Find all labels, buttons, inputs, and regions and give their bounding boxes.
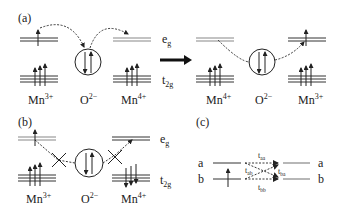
ion-label: Mn3+	[28, 92, 54, 107]
panel-a-label: (a)	[18, 11, 31, 25]
panel-b: (b)	[18, 115, 171, 206]
cross-icon	[52, 153, 66, 167]
orbital-a-left-label: a	[198, 156, 204, 170]
hopping-arrow-icon	[275, 42, 304, 60]
ion-label: Mn4+	[121, 92, 147, 107]
cross-icon	[108, 150, 122, 164]
ion-label: O2−	[80, 92, 98, 107]
ion-label: O2−	[81, 191, 99, 206]
panel-a-right-oxygen	[249, 49, 275, 75]
ion-label: Mn4+	[206, 92, 232, 107]
hopping-path-icon	[218, 40, 250, 62]
ion-label: Mn3+	[26, 191, 52, 206]
t2g-label: t2g	[162, 73, 173, 89]
orbital-b-left-label: b	[198, 172, 204, 186]
ion-label: Mn4+	[121, 191, 147, 206]
ion-label: O2−	[255, 92, 273, 107]
panel-b-oxygen	[75, 149, 103, 177]
panel-a-right-mn3-levels	[288, 30, 326, 86]
panel-a-left-oxygen	[75, 49, 101, 75]
t-ba-label: tba	[278, 167, 286, 177]
t-ab-label: tab	[245, 166, 253, 176]
panel-c: (c) a b a b taa tab tba tbb	[196, 115, 324, 193]
panel-b-mn4-levels	[112, 137, 150, 187]
panel-c-label: (c)	[196, 115, 209, 129]
ion-label: Mn3+	[298, 92, 324, 107]
panel-b-label: (b)	[18, 115, 32, 129]
panel-a-left-mn3-levels	[20, 30, 58, 86]
panel-a: (a)	[18, 11, 326, 107]
eg-label: eg	[162, 32, 171, 48]
panel-b-mn3-levels	[18, 130, 56, 186]
hopping-arrow-icon	[40, 25, 84, 47]
t-aa-label: taa	[258, 151, 266, 161]
blocked-hopping-path-icon	[35, 140, 75, 163]
double-exchange-diagram: (a)	[0, 0, 343, 213]
eg-label: eg	[160, 132, 169, 148]
orbital-a-right-label: a	[318, 156, 324, 170]
panel-a-right-mn4-levels	[196, 38, 234, 86]
t2g-label: t2g	[160, 173, 171, 189]
t-bb-label: tbb	[258, 183, 266, 193]
panel-a-left-mn4-levels	[113, 38, 151, 86]
orbital-b-right-label: b	[318, 172, 324, 186]
